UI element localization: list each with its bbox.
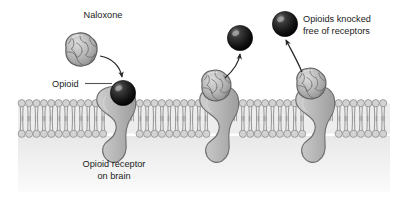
label-opioid-receptor-line1: Opioid receptor bbox=[83, 159, 146, 169]
label-naloxone: Naloxone bbox=[84, 10, 123, 20]
naloxone-molecule-free[interactable] bbox=[66, 33, 97, 66]
cytoplasm-region bbox=[18, 136, 390, 192]
diagram-svg: Naloxone Opioid Opioid receptor on brain… bbox=[0, 0, 407, 205]
label-opioids-knocked-line1: Opioids knocked bbox=[303, 14, 371, 24]
naloxone-molecule-bound-middle[interactable] bbox=[202, 70, 231, 101]
label-opioid: Opioid bbox=[52, 79, 79, 89]
opioid-molecule-bound[interactable] bbox=[110, 80, 135, 105]
naloxone-molecule-bound-right[interactable] bbox=[297, 68, 326, 99]
label-opioid-receptor-line2: on brain bbox=[97, 171, 130, 181]
label-opioids-knocked-line2: free of receptors bbox=[303, 26, 370, 36]
opioid-molecule-free-middle[interactable] bbox=[227, 25, 252, 50]
diagram-canvas: Naloxone Opioid Opioid receptor on brain… bbox=[0, 0, 407, 205]
opioid-molecule-free-right[interactable] bbox=[272, 11, 297, 36]
